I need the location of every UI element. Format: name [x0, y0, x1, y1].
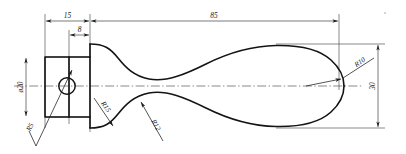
radius-callout-R12: R12: [141, 102, 163, 141]
dimension-diameter-20: ø20: [16, 58, 26, 116]
dimension-85-label: 85: [210, 11, 218, 20]
radius-callout-R15: R15: [94, 98, 113, 126]
cad-drawing-svg: 15 8 85 ø20 30: [0, 0, 406, 154]
flange-block: [45, 57, 90, 117]
dimension-15: 15: [46, 11, 89, 21]
radius-callout-R5-label: R5: [24, 121, 35, 133]
dimension-30: 30: [368, 45, 379, 127]
extension-lines: [45, 14, 385, 132]
technical-drawing-canvas: 15 8 85 ø20 30: [0, 0, 406, 154]
radius-callout-R5: R5: [24, 70, 72, 146]
dimension-85: 85: [91, 11, 338, 21]
dimension-15-label: 15: [64, 11, 72, 20]
dimension-8: 8: [70, 25, 89, 35]
radius-callout-R15-label: R15: [99, 99, 113, 114]
dimension-30-label: 30: [368, 82, 377, 91]
scan-artifact: [384, 12, 386, 14]
dimension-diameter-20-label: ø20: [16, 81, 25, 93]
dimension-8-label: 8: [78, 25, 82, 34]
